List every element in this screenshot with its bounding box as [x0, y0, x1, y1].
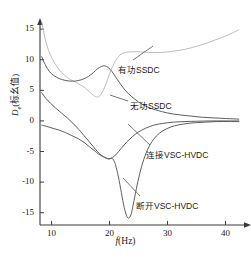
annotation-leader-有功SSDC [133, 46, 153, 60]
y-tick-label: -5 [8, 146, 34, 156]
y-axis-label-subscript: e [15, 107, 22, 110]
annotation-label-无功SSDC: 无功SSDC [130, 99, 172, 111]
chart-figure: De(标幺值) f(Hz) 151050-5-10-1510203040 有功S… [0, 0, 251, 258]
x-tick-label: 30 [155, 228, 181, 238]
x-tick-label: 20 [97, 228, 123, 238]
x-tick-label: 10 [39, 228, 65, 238]
y-tick-label: 10 [8, 54, 34, 64]
y-tick-label: 0 [8, 115, 34, 125]
chart-canvas [0, 0, 251, 258]
annotation-leader-断开VSC-HVDC [123, 178, 140, 196]
series-line-连接VSC-HVDC [42, 121, 239, 159]
annotation-label-有功SSDC: 有功SSDC [118, 63, 160, 75]
y-tick-label: -15 [8, 207, 34, 217]
annotation-label-连接VSC-HVDC: 连接VSC-HVDC [146, 148, 208, 160]
y-tick-label: 15 [8, 23, 34, 33]
annotation-leader-无功SSDC [110, 95, 128, 101]
x-tick-label: 40 [213, 228, 239, 238]
series-line-有功SSDC [42, 22, 239, 97]
y-tick-label: -10 [8, 176, 34, 186]
annotation-label-断开VSC-HVDC: 断开VSC-HVDC [136, 199, 198, 211]
annotation-leader-连接VSC-HVDC [128, 124, 150, 145]
y-tick-label: 5 [8, 84, 34, 94]
